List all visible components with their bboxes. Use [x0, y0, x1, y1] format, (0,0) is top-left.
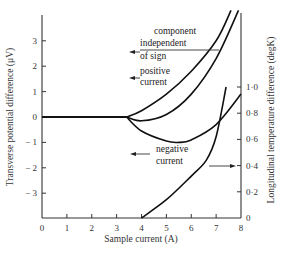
curve-negative-current: [42, 94, 241, 142]
x-tick-label: 3: [114, 223, 119, 233]
curve-component-independent-of-sign: [42, 10, 231, 117]
y2-tick-label: 1·0: [246, 82, 258, 92]
annotation-temperature-arrow: [209, 164, 236, 168]
y-axis-title: Transverse potential difference (μV): [5, 48, 16, 186]
arrow-right-icon: [230, 164, 236, 168]
y2-tick-label: 0·2: [246, 187, 258, 197]
annotation-text: current: [156, 156, 183, 166]
y2-axis-title: Longitudinal temperature difference (deg…: [266, 37, 277, 204]
x-tick-label: 2: [90, 223, 95, 233]
annotation-text: positive: [140, 66, 170, 76]
annotation-text: negative: [156, 144, 188, 154]
chart: 0123456783210− 1− 2− 31·00·80·60·40·20 S…: [0, 0, 281, 258]
x-tick-label: 0: [40, 223, 45, 233]
annotation-negative: negative current: [130, 144, 188, 166]
x-tick-label: 6: [189, 223, 194, 233]
x-tick-label: 5: [164, 223, 169, 233]
arrow-left-icon: [129, 76, 135, 80]
x-tick-label: 7: [214, 223, 219, 233]
arrow-left-icon: [129, 50, 135, 54]
y-tick-label: − 1: [25, 137, 37, 147]
annotation-text: component: [154, 26, 197, 36]
x-tick-label: 1: [65, 223, 70, 233]
y2-tick-label: 0·4: [246, 161, 258, 171]
y-tick-label: 1: [33, 87, 38, 97]
y-tick-label: − 2: [25, 163, 37, 173]
x-tick-label: 8: [239, 223, 244, 233]
y2-tick-label: 0: [246, 213, 251, 223]
y-tick-label: 0: [33, 112, 38, 122]
annotation-text: current: [140, 77, 167, 87]
y2-tick-label: 0·6: [246, 134, 258, 144]
x-axis-title: Sample current (A): [104, 234, 177, 245]
y-tick-label: 3: [33, 36, 38, 46]
x-tick-label: 4: [139, 223, 144, 233]
y-tick-label: − 3: [25, 188, 37, 198]
y2-tick-label: 0·8: [246, 108, 258, 118]
arrow-left-icon: [130, 152, 136, 156]
annotation-text: of sign: [140, 51, 166, 61]
y-tick-label: 2: [33, 61, 38, 71]
annotation-positive: positive current: [129, 66, 170, 87]
annotation-text: independent: [140, 38, 187, 48]
